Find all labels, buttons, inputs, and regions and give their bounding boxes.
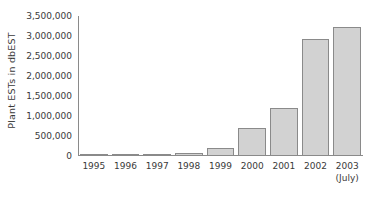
bar[interactable]: [238, 128, 266, 156]
bar[interactable]: [143, 154, 171, 156]
bar[interactable]: [207, 148, 235, 156]
x-axis-tick-label: 1998: [173, 160, 205, 194]
x-axis-tick-sub-label: (July): [331, 172, 363, 184]
x-axis-tick-label: 1997: [141, 160, 173, 194]
x-axis-tick-label-year: 1999: [209, 161, 232, 171]
x-axis-tick-label: 1996: [110, 160, 142, 194]
x-axis-tick-label: 2001: [268, 160, 300, 194]
x-axis-tick-label-year: 1997: [146, 161, 169, 171]
y-axis-tick-label: 3,500,000: [26, 12, 72, 21]
bar-chart: Plant ESTs in dbEST 0500,0001,000,0001,5…: [0, 0, 374, 198]
bar-slot: [268, 16, 300, 156]
bar-slot: [205, 16, 237, 156]
y-axis-tick-label: 3,000,000: [26, 32, 72, 41]
bar-slot: [78, 16, 110, 156]
y-axis-tick-label: 2,000,000: [26, 72, 72, 81]
y-axis-tick-label: 1,500,000: [26, 92, 72, 101]
x-axis-tick-label: 2003(July): [331, 160, 363, 194]
bar[interactable]: [333, 27, 361, 156]
x-axis-tick-labels: 199519961997199819992000200120022003(Jul…: [78, 160, 363, 194]
bar-slot: [141, 16, 173, 156]
bar[interactable]: [175, 153, 203, 156]
x-axis-tick-label: 1995: [78, 160, 110, 194]
bar-slot: [173, 16, 205, 156]
y-axis-tick-label: 1,000,000: [26, 112, 72, 121]
x-axis-tick-label-year: 1998: [177, 161, 200, 171]
bar-slot: [110, 16, 142, 156]
bar-slot: [331, 16, 363, 156]
y-axis-tick-label: 2,500,000: [26, 52, 72, 61]
x-axis-tick-label-year: 2001: [272, 161, 295, 171]
bar[interactable]: [270, 108, 298, 156]
x-axis-tick-label: 2000: [236, 160, 268, 194]
x-axis-tick-label-year: 1995: [82, 161, 105, 171]
x-axis-tick-label: 2002: [300, 160, 332, 194]
y-axis-tick-label: 0: [66, 152, 72, 161]
x-axis-tick-label-year: 2000: [241, 161, 264, 171]
x-axis-tick-label: 1999: [205, 160, 237, 194]
y-axis-title-text: Plant ESTs in dbEST: [6, 32, 17, 129]
bar[interactable]: [302, 39, 330, 156]
x-axis-tick-label-year: 1996: [114, 161, 137, 171]
bar-slot: [236, 16, 268, 156]
plot-area: [78, 16, 363, 156]
bar-slot: [300, 16, 332, 156]
y-axis-tick-label: 500,000: [35, 132, 72, 141]
bar[interactable]: [80, 154, 108, 156]
x-axis-tick-label-year: 2003: [336, 161, 359, 171]
x-axis-tick-label-year: 2002: [304, 161, 327, 171]
bar[interactable]: [112, 154, 140, 156]
bars-container: [78, 16, 363, 156]
y-axis-tick-labels: 0500,0001,000,0001,500,0002,000,0002,500…: [18, 16, 72, 156]
